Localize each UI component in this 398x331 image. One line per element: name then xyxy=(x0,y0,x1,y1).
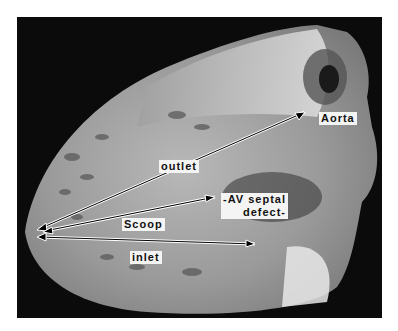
av-septal-defect-label: -AV septal defect- xyxy=(221,193,288,219)
specimen-drawing xyxy=(17,17,382,318)
outlet-label: outlet xyxy=(159,160,199,173)
av-septal-line2: defect- xyxy=(223,206,286,219)
inlet-label: inlet xyxy=(130,251,162,264)
heart-specimen-photo: Aorta outlet -AV septal defect- Scoop in… xyxy=(17,17,382,318)
av-septal-line1: -AV septal xyxy=(223,193,286,206)
scoop-label: Scoop xyxy=(122,218,165,231)
aorta-label: Aorta xyxy=(319,112,357,125)
